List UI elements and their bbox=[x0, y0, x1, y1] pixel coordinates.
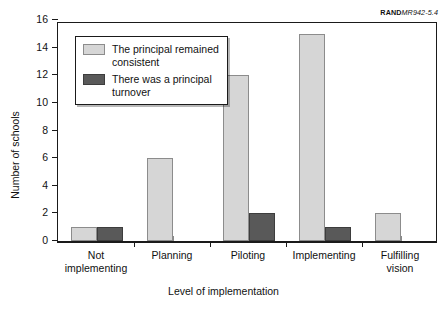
bar-principal-consistent bbox=[375, 213, 401, 241]
x-axis-tick bbox=[286, 241, 287, 247]
legend-entry: The principal remained consistent bbox=[83, 43, 219, 68]
plot-area: 0246810121416 The principal remained con… bbox=[57, 22, 437, 243]
rand-document-number: MR942-5.4 bbox=[402, 8, 438, 17]
y-axis-tick-label: 10 bbox=[36, 96, 48, 108]
x-axis-category-label: Piloting bbox=[231, 249, 265, 262]
x-axis-tick bbox=[210, 241, 211, 247]
y-axis-tick: 16 bbox=[52, 19, 58, 20]
bar-principal-consistent bbox=[147, 158, 173, 241]
y-axis-tick: 8 bbox=[52, 130, 58, 131]
y-axis-tick-label: 0 bbox=[42, 234, 48, 246]
legend-entry-label: The principal remained consistent bbox=[112, 43, 219, 68]
bar-principal-turnover bbox=[325, 227, 351, 241]
bar-principal-consistent bbox=[71, 227, 97, 241]
y-axis-tick-label: 16 bbox=[36, 13, 48, 25]
bar-principal-consistent bbox=[299, 34, 325, 241]
x-axis-tick bbox=[134, 241, 135, 247]
rand-document-credit: RANDMR942-5.4 bbox=[380, 8, 438, 17]
bar-principal-turnover bbox=[173, 236, 174, 241]
y-axis-tick-label: 4 bbox=[42, 179, 48, 191]
chart-legend: The principal remained consistentThere w… bbox=[75, 36, 228, 105]
y-axis-tick-label: 2 bbox=[42, 206, 48, 218]
y-axis-tick: 0 bbox=[52, 240, 58, 241]
y-axis-tick: 12 bbox=[52, 74, 58, 75]
y-axis-tick: 10 bbox=[52, 102, 58, 103]
x-axis-tick bbox=[362, 241, 363, 247]
bar-principal-turnover bbox=[249, 213, 275, 241]
x-axis-category-label: Fulfilling vision bbox=[381, 249, 420, 274]
y-axis-tick: 4 bbox=[52, 185, 58, 186]
x-axis-category-label: Implementing bbox=[292, 249, 355, 262]
legend-entry-label: There was a principal turnover bbox=[112, 73, 212, 98]
x-axis-title: Level of implementation bbox=[0, 285, 447, 297]
y-axis-tick: 2 bbox=[52, 212, 58, 213]
y-axis-title: Number of schools bbox=[9, 75, 21, 235]
bar-principal-turnover bbox=[97, 227, 123, 241]
y-axis-tick-label: 8 bbox=[42, 124, 48, 136]
y-axis-tick: 14 bbox=[52, 47, 58, 48]
x-axis-category-label: Planning bbox=[152, 249, 193, 262]
figure-container: RANDMR942-5.4 Number of schools 02468101… bbox=[0, 0, 447, 309]
y-axis-tick: 6 bbox=[52, 157, 58, 158]
rand-logo-text: RAND bbox=[380, 8, 401, 17]
y-axis-tick-label: 12 bbox=[36, 68, 48, 80]
plot-inner: 0246810121416 The principal remained con… bbox=[58, 23, 436, 241]
legend-color-swatch bbox=[83, 74, 105, 85]
bar-principal-turnover bbox=[401, 236, 402, 241]
x-axis-category-label: Not implementing bbox=[65, 249, 127, 274]
y-axis-tick-label: 6 bbox=[42, 151, 48, 163]
legend-color-swatch bbox=[83, 44, 105, 55]
y-axis-tick-label: 14 bbox=[36, 41, 48, 53]
legend-entry: There was a principal turnover bbox=[83, 73, 219, 98]
